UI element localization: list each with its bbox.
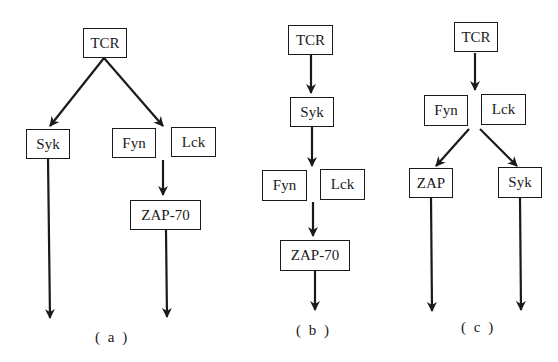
node-c-tcr: TCR [454,22,498,52]
caption-b: ( b ) [296,322,331,339]
node-a-syk: Syk [26,129,70,159]
node-b-zap70: ZAP-70 [280,240,350,271]
node-b-tcr: TCR [288,25,333,55]
node-c-lck: Lck [481,94,526,125]
node-c-syk: Syk [498,167,542,198]
tcr-signaling-diagram: TCR Syk Fyn Lck ZAP-70 ( a ) TCR Syk Fyn… [0,0,558,362]
node-b-syk: Syk [290,97,334,127]
node-a-fyn: Fyn [112,128,156,158]
node-b-lck: Lck [320,169,365,200]
arrow-c-zap-downstream [431,197,432,311]
arrow-a-tcr-to-fyn-lck [104,58,163,126]
arrow-a-zap70-downstream [166,230,167,317]
node-a-zap70: ZAP-70 [130,200,201,230]
arrow-c-syk-downstream [520,198,521,310]
node-b-fyn: Fyn [262,170,307,201]
node-c-fyn: Fyn [424,95,468,126]
caption-a: ( a ) [95,329,129,346]
arrow-c-fyn-lck-to-syk [480,129,517,166]
node-a-tcr: TCR [83,28,127,58]
caption-c: ( c ) [461,319,495,336]
node-c-zap: ZAP [409,168,453,198]
arrow-c-fyn-lck-to-zap [436,129,469,166]
arrow-a-tcr-to-syk [50,58,104,126]
arrow-a-syk-downstream [48,158,50,318]
node-a-lck: Lck [171,127,216,157]
